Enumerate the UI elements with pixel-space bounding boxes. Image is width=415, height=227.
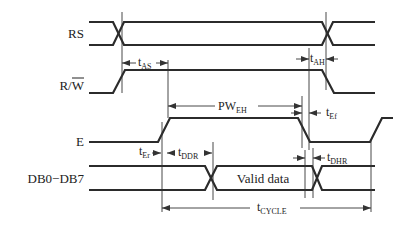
signal-label-rw: R/W	[59, 78, 84, 93]
valid-data-label: Valid data	[237, 171, 290, 186]
t-ah-dimension: tAH	[296, 51, 338, 67]
svg-text:PWEH: PWEH	[218, 99, 247, 115]
rs-waveform	[89, 22, 375, 45]
svg-text:tAS: tAS	[138, 55, 152, 71]
svg-text:tEf: tEf	[326, 105, 337, 121]
t-cycle-dimension: tCYCLE	[162, 200, 371, 216]
svg-text:tEr: tEr	[139, 144, 150, 160]
t-er-dimension: tEr	[139, 144, 161, 160]
signal-label-e: E	[76, 134, 84, 149]
svg-text:tCYCLE: tCYCLE	[257, 200, 287, 216]
t-as-dimension: tAS	[122, 55, 168, 71]
svg-text:tDDR: tDDR	[178, 145, 199, 161]
timing-diagram: RS R/W E DB0−DB7 Valid data tAS	[0, 0, 415, 227]
t-dhr-dimension: tDHR	[293, 150, 348, 166]
signal-label-rs: RS	[68, 26, 84, 41]
e-waveform	[89, 118, 393, 142]
t-ddr-dimension: tDDR	[167, 145, 212, 161]
db-waveform	[89, 166, 375, 190]
rw-waveform	[89, 70, 375, 93]
signal-label-db: DB0−DB7	[28, 171, 85, 186]
svg-text:tAH: tAH	[310, 51, 325, 67]
svg-text:tDHR: tDHR	[327, 150, 348, 166]
svg-text:R/W: R/W	[59, 78, 84, 93]
pw-eh-dimension: PWEH	[168, 99, 302, 115]
